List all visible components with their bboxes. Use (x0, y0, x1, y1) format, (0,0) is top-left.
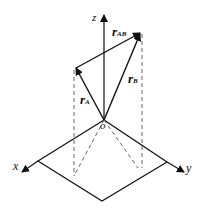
r-a-label: rA (80, 93, 90, 106)
z-axis-label: z (92, 12, 96, 23)
r-ab-label: rAB (112, 25, 126, 38)
y-axis-label: y (186, 162, 191, 174)
x-axis (22, 161, 38, 172)
diagram-canvas (0, 0, 201, 209)
vector-r-ab (76, 33, 140, 68)
y-axis (167, 162, 184, 172)
x-axis-label: x (13, 160, 18, 172)
xy-plane-square (38, 120, 167, 201)
origin-label: o (100, 120, 106, 131)
vector-diagram: z x y o rAB rA rB (0, 0, 201, 209)
r-b-label: rB (128, 72, 138, 85)
